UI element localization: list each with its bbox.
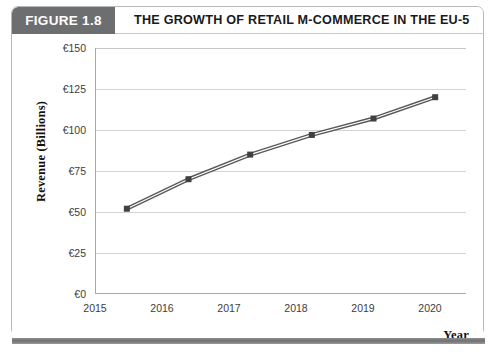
figure-number-block: FIGURE 1.8 — [12, 7, 115, 34]
data-point-marker[interactable] — [309, 132, 315, 138]
y-tick-label: €50 — [38, 206, 86, 218]
figure-title-block: THE GROWTH OF RETAIL M-COMMERCE IN THE E… — [115, 7, 483, 34]
y-tick-label: €150 — [38, 42, 86, 54]
figure-number-label: FIGURE 1.8 — [25, 13, 102, 28]
x-tick-label: 2017 — [201, 302, 257, 314]
data-point-marker[interactable] — [371, 116, 377, 122]
data-point-marker[interactable] — [186, 176, 192, 182]
y-axis-title: Revenue (Billions) — [34, 77, 49, 227]
line-chart-svg — [96, 48, 466, 294]
figure-card: FIGURE 1.8 THE GROWTH OF RETAIL M-COMMER… — [11, 6, 484, 336]
series-line-outer — [127, 97, 435, 209]
y-tick-label: €100 — [38, 124, 86, 136]
data-point-marker[interactable] — [247, 152, 253, 158]
figure-header: FIGURE 1.8 THE GROWTH OF RETAIL M-COMMER… — [12, 7, 483, 34]
x-tick-label: 2016 — [134, 302, 190, 314]
x-tick-label: 2015 — [67, 302, 123, 314]
y-tick-label: €125 — [38, 83, 86, 95]
bottom-divider-rule — [12, 338, 485, 344]
y-tick-label: €25 — [38, 247, 86, 259]
y-tick-label: €0 — [38, 288, 86, 300]
plot-area — [95, 48, 465, 294]
figure-title: THE GROWTH OF RETAIL M-COMMERCE IN THE E… — [134, 13, 470, 27]
chart-body: Revenue (Billions) €150 €125 €100 €75 €5… — [12, 34, 483, 336]
data-point-marker[interactable] — [124, 206, 130, 212]
gridlines — [96, 49, 466, 294]
data-point-marker[interactable] — [432, 94, 438, 100]
y-tick-label: €75 — [38, 165, 86, 177]
x-tick-label: 2018 — [268, 302, 324, 314]
series-line-group — [127, 97, 435, 209]
x-tick-label: 2019 — [335, 302, 391, 314]
x-tick-label: 2020 — [402, 302, 458, 314]
